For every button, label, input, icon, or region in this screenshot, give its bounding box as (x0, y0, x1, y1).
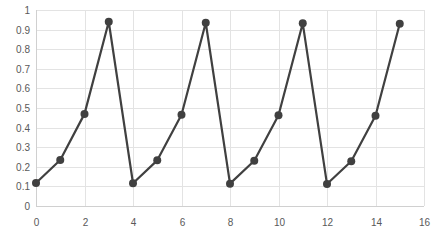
data-point-marker (275, 111, 283, 119)
data-point-marker (347, 157, 355, 165)
y-tick-label: 0 (24, 201, 30, 212)
y-tick-label: 0.3 (16, 142, 30, 153)
y-tick-label: 0.9 (16, 25, 30, 36)
x-tick-label: 10 (274, 217, 286, 228)
data-point-marker (202, 19, 210, 27)
x-tick-label: 6 (180, 217, 186, 228)
data-point-marker (226, 180, 234, 188)
x-tick-label: 4 (131, 217, 137, 228)
y-tick-label: 1 (24, 5, 30, 16)
data-point-marker (129, 179, 137, 187)
y-tick-label: 0.1 (16, 181, 30, 192)
y-tick-label: 0.8 (16, 44, 30, 55)
data-point-marker (178, 111, 186, 119)
y-tick-label: 0.4 (16, 123, 30, 134)
data-point-marker (105, 18, 113, 26)
data-point-marker (299, 19, 307, 27)
y-axis-ticks: 00.10.20.30.40.50.60.70.80.91 (16, 5, 30, 212)
x-tick-label: 16 (419, 217, 431, 228)
y-tick-label: 0.5 (16, 103, 30, 114)
grid-lines (36, 10, 425, 207)
data-point-marker (32, 179, 40, 187)
data-point-marker (396, 20, 404, 28)
data-point-marker (153, 156, 161, 164)
x-axis-ticks: 0246810121416 (34, 217, 431, 228)
data-series (32, 18, 404, 188)
data-point-marker (81, 110, 89, 118)
data-point-marker (56, 156, 64, 164)
x-tick-label: 2 (83, 217, 89, 228)
y-tick-label: 0.6 (16, 83, 30, 94)
data-point-marker (250, 157, 258, 165)
x-tick-label: 0 (34, 217, 40, 228)
x-tick-label: 8 (228, 217, 234, 228)
x-tick-label: 12 (322, 217, 334, 228)
x-tick-label: 14 (371, 217, 383, 228)
y-tick-label: 0.7 (16, 64, 30, 75)
data-point-marker (323, 180, 331, 188)
y-tick-label: 0.2 (16, 162, 30, 173)
series-line (36, 22, 400, 184)
line-chart: 00.10.20.30.40.50.60.70.80.91 0246810121… (0, 0, 435, 235)
data-point-marker (372, 112, 380, 120)
